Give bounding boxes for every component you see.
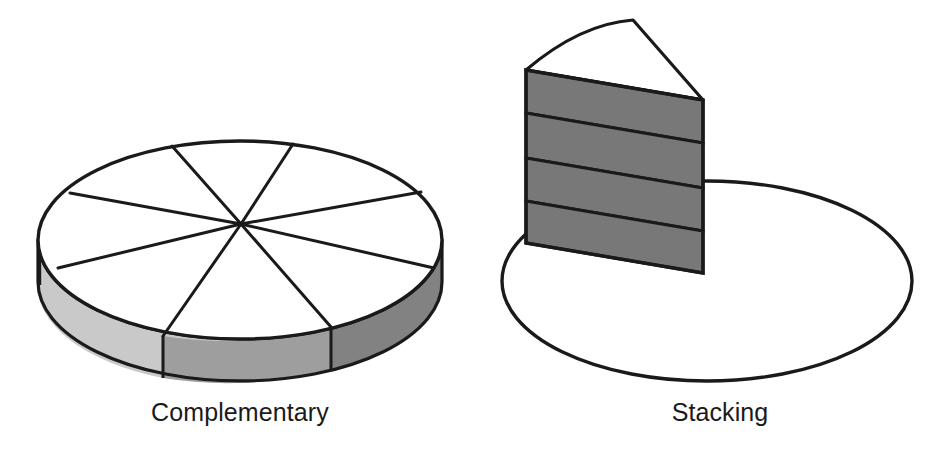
- label-complementary: Complementary: [0, 398, 480, 427]
- label-stacking: Stacking: [520, 398, 920, 427]
- pie-top-face: [38, 141, 442, 339]
- figure-stacking: [502, 20, 912, 381]
- diagram-svg: [0, 0, 936, 459]
- figure-complementary: [38, 141, 442, 383]
- figure-canvas: Complementary Stacking: [0, 0, 936, 459]
- stacking-bands: [526, 70, 703, 273]
